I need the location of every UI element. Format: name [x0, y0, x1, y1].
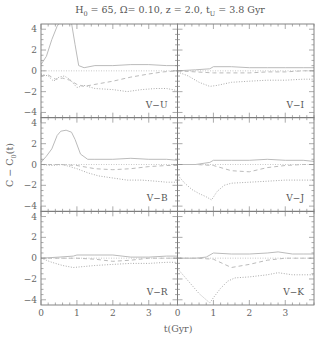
panel-v-i: V−I — [178, 24, 315, 118]
y-tick-label: 0 — [31, 253, 37, 263]
series-dotted — [41, 165, 178, 183]
y-tick-label: 2 — [31, 232, 37, 242]
y-tick-label: −4 — [24, 201, 38, 211]
series-dashed — [41, 165, 178, 170]
series-dotted — [41, 258, 178, 267]
x-tick-label: 3 — [146, 308, 152, 318]
series-solid — [178, 67, 315, 71]
series-dashed — [178, 165, 315, 172]
panel-v-k: 0123V−K — [175, 211, 314, 318]
y-tick-label: 2 — [31, 139, 37, 149]
series-solid — [178, 252, 315, 258]
chart-title: H0 = 65, Ω= 0.10, z = 2.0, tU = 3.8 Gyr — [75, 4, 265, 18]
panel-label: V−R — [146, 287, 168, 297]
y-axis-label: C − C0(t) — [4, 143, 18, 187]
x-tick-label: 3 — [282, 308, 288, 318]
y-tick-label: 0 — [31, 160, 37, 170]
x-tick-label: 1 — [211, 308, 217, 318]
panel-v-b: −4−2024V−B — [24, 118, 178, 212]
series-dashed — [41, 71, 178, 87]
panel-label: V−I — [285, 100, 304, 110]
x-axis-label: t(Gyr) — [164, 323, 193, 334]
x-tick-label: 2 — [246, 308, 252, 318]
series-dotted — [41, 74, 178, 92]
y-tick-label: −2 — [24, 274, 37, 284]
x-tick-label: 0 — [175, 308, 181, 318]
panel-v-r: −4−20240123V−R — [24, 211, 178, 318]
series-dotted — [178, 72, 315, 87]
series-solid — [41, 130, 178, 162]
panel-v-u: −4−2024V−U — [24, 19, 178, 118]
y-tick-label: −2 — [24, 87, 37, 97]
x-tick-label: 1 — [74, 308, 80, 318]
panel-label: V−U — [145, 100, 168, 110]
y-tick-label: 2 — [31, 45, 37, 55]
series-solid — [41, 19, 178, 68]
series-dashed — [41, 258, 178, 261]
x-tick-label: 0 — [38, 308, 44, 318]
y-tick-label: 4 — [31, 118, 37, 128]
series-dotted — [178, 269, 315, 303]
series-solid — [178, 159, 315, 164]
y-tick-label: 4 — [31, 212, 37, 222]
y-tick-label: 4 — [31, 24, 37, 34]
y-tick-label: −4 — [24, 107, 38, 117]
series-dashed — [178, 258, 315, 267]
y-tick-label: 0 — [31, 66, 37, 76]
panel-label: V−J — [285, 193, 304, 203]
x-tick-label: 2 — [110, 308, 116, 318]
panel-label: V−K — [282, 287, 304, 297]
panel-label: V−B — [146, 193, 168, 203]
chart-figure: H0 = 65, Ω= 0.10, z = 2.0, tU = 3.8 Gyr … — [0, 0, 324, 341]
panel-v-j: V−J — [178, 118, 315, 212]
y-tick-label: −4 — [24, 295, 38, 305]
y-tick-label: −2 — [24, 180, 37, 190]
panel-grid: −4−2024V−UV−I−4−2024V−BV−J−4−20240123V−R… — [24, 19, 314, 318]
series-solid — [41, 255, 178, 258]
